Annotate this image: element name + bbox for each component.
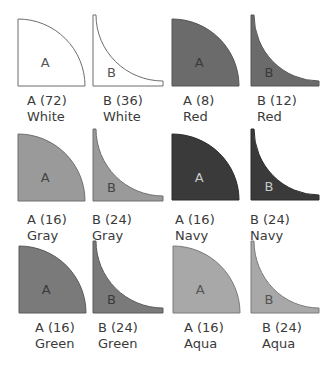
count-label: B (24) (250, 212, 330, 228)
tile-b-white-shape: B (92, 14, 164, 87)
count-label: A (72) (27, 93, 107, 109)
shape-letter: A (195, 55, 204, 70)
color-name-label: White (27, 109, 107, 125)
count-label: A (16) (175, 212, 255, 228)
shape-letter: B (107, 65, 116, 80)
color-name-label: Aqua (262, 336, 334, 352)
color-name-label: Red (183, 109, 263, 125)
tile-caption: A (16)Navy (175, 212, 255, 244)
concave-quarter-circle-icon: B (92, 128, 164, 202)
tile-caption: A (8)Red (183, 93, 263, 125)
tile-b-gray-shape: B (92, 128, 164, 202)
shape-letter: A (195, 170, 204, 185)
concave-quarter-circle-icon: B (250, 14, 320, 87)
concave-quarter-circle-icon: B (92, 240, 164, 314)
convex-quarter-circle-icon: A (171, 133, 240, 201)
convex-quarter-circle-icon: A (17, 18, 86, 87)
concave-quarter-circle-icon: B (92, 14, 164, 87)
tile-caption: B (24)Aqua (262, 320, 334, 352)
convex-quarter-circle-icon: A (171, 18, 240, 87)
tile-b-red-shape: B (250, 14, 320, 87)
tile-caption: B (12)Red (257, 93, 334, 125)
shape-letter: B (107, 292, 116, 307)
tile-b-aqua-shape: B (250, 240, 320, 314)
count-label: A (16) (184, 320, 264, 336)
tile-b-navy-shape: B (250, 128, 320, 201)
shape-letter: A (42, 282, 51, 297)
color-name-label: Navy (175, 228, 255, 244)
convex-quarter-circle-icon: A (18, 245, 87, 314)
tile-caption: B (24)Green (98, 320, 178, 352)
tile-a-red-shape: A (171, 18, 240, 87)
tile-a-aqua-shape: A (172, 245, 241, 314)
tile-caption: A (72)White (27, 93, 107, 125)
convex-quarter-circle-icon: A (17, 133, 86, 202)
count-label: B (24) (262, 320, 334, 336)
tile-a-gray-shape: A (17, 133, 86, 202)
shape-letter: A (41, 55, 50, 70)
shape-letter: A (41, 170, 50, 185)
count-label: B (12) (257, 93, 334, 109)
tile-a-navy-shape: A (171, 133, 240, 201)
color-name-label: White (103, 109, 183, 125)
count-label: B (24) (98, 320, 178, 336)
tile-b-green-shape: B (92, 240, 164, 314)
shape-letter: A (196, 282, 205, 297)
count-label: A (8) (183, 93, 263, 109)
convex-quarter-circle-icon: A (172, 245, 241, 314)
concave-quarter-circle-icon: B (250, 240, 320, 314)
concave-quarter-circle-icon: B (250, 128, 320, 201)
tile-a-green-shape: A (18, 245, 87, 314)
shape-letter: B (265, 292, 274, 307)
tile-a-white-shape: A (17, 18, 86, 87)
color-name-label: Green (98, 336, 178, 352)
tile-caption: A (16)Aqua (184, 320, 264, 352)
count-label: B (24) (92, 212, 172, 228)
shape-letter: B (107, 180, 116, 195)
color-name-label: Red (257, 109, 334, 125)
tile-caption: B (36)White (103, 93, 183, 125)
count-label: B (36) (103, 93, 183, 109)
shape-letter: B (265, 179, 274, 194)
color-name-label: Aqua (184, 336, 264, 352)
shape-letter: B (265, 65, 274, 80)
